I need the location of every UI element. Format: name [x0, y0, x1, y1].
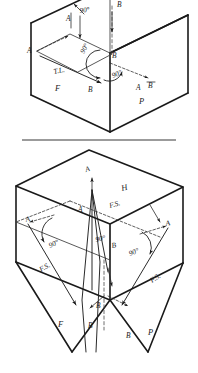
figure-root: A B 90° A 90° 90° B T.L. F B A B P [0, 0, 198, 373]
lower-label-fold-right: F.S. [147, 271, 162, 285]
lower-label-angle-left: 90° [48, 238, 61, 249]
lower-label-b-center: B [111, 240, 117, 250]
lower-label-plane-horizontal: H [119, 183, 129, 194]
upper-label-angle-top-right: 90° [79, 6, 90, 15]
lower-label-angle-right: 90° [128, 247, 140, 258]
lower-label-fold-top: F.S. [107, 198, 121, 210]
upper-label-a-left: A [26, 46, 32, 55]
technical-drawing-canvas: A B 90° A 90° 90° B T.L. F B A B P [0, 0, 198, 373]
upper-label-b-top: B [117, 0, 122, 9]
upper-label-angle-center-left: 90° [79, 42, 91, 55]
upper-true-length-line [40, 56, 101, 83]
upper-label-angle-center-lower: 90° [111, 69, 123, 80]
lower-label-angle-center: 90° [95, 234, 107, 244]
lower-label-a-right: A [164, 218, 172, 228]
lower-label-b-lower-center: B [96, 301, 101, 310]
upper-label-a-profile: A [135, 83, 141, 92]
lower-center-vectors [82, 178, 112, 352]
lower-label-b-left: B [88, 321, 93, 330]
upper-label-b-front: B [88, 85, 93, 94]
upper-horizontal-plane [37, 34, 112, 72]
lower-label-plane-frontal: F [57, 320, 64, 329]
upper-label-plane-frontal: F [54, 84, 61, 93]
lower-label-plane-profile: P [147, 328, 153, 337]
lower-label-a-left: A [23, 214, 31, 224]
upper-label-plane-profile: P [138, 97, 144, 106]
lower-box-edges [16, 150, 183, 352]
lower-label-b-right: B [126, 331, 131, 340]
upper-label-true-length: T.L. [53, 65, 66, 76]
lower-label-fold-left: F.S. [37, 260, 52, 274]
upper-label-b-center: B [112, 51, 117, 60]
lower-diagram-group: A H F.S. A 90° B A 90° F.S. 90° A F.S. B… [16, 150, 183, 352]
lower-label-a-top: A [83, 164, 91, 174]
upper-label-a-top: A [65, 14, 71, 23]
upper-diagram-group: A B 90° A 90° 90° B T.L. F B A B P [26, 0, 188, 132]
lower-label-a-center: A [77, 205, 83, 214]
